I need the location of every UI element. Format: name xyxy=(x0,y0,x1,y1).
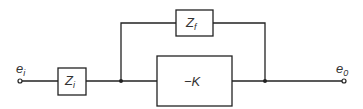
junction-right xyxy=(263,79,267,83)
input-label: ei xyxy=(16,62,25,78)
output-terminal xyxy=(342,79,346,83)
block-diagram xyxy=(0,0,363,109)
block-gain-label: −K xyxy=(184,75,200,88)
block-zf-label: Zf xyxy=(186,16,196,32)
junction-left xyxy=(119,79,123,83)
output-label: e0 xyxy=(336,62,348,78)
input-terminal xyxy=(18,79,22,83)
block-zi-label: Zi xyxy=(65,74,75,90)
